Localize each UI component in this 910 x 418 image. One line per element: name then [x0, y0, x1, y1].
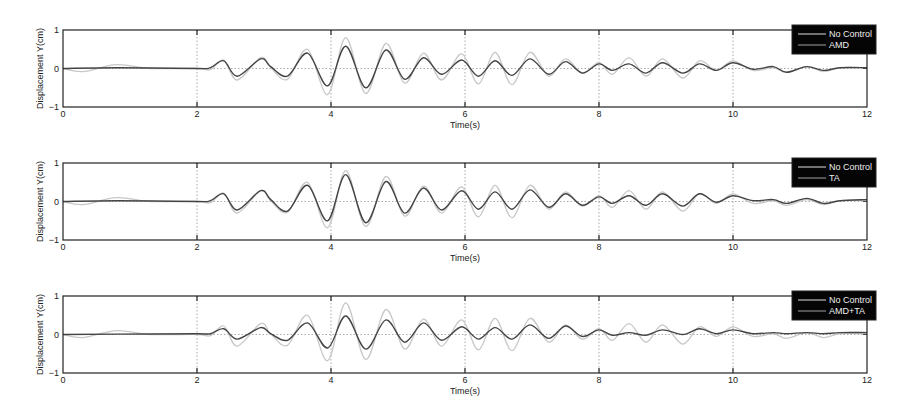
- x-tick-label: 8: [596, 375, 601, 385]
- x-tick-label: 0: [60, 242, 65, 252]
- x-tick-label: 2: [194, 375, 199, 385]
- x-axis-label: Time(s): [450, 253, 480, 263]
- y-tick-label: −1: [49, 102, 59, 112]
- legend-entry: AMD: [829, 40, 850, 50]
- y-tick-label: 1: [54, 291, 59, 301]
- y-axis-label: Displacement Y(cm): [35, 294, 45, 375]
- x-tick-label: 0: [60, 109, 65, 119]
- x-tick-label: 4: [328, 242, 333, 252]
- y-tick-label: 1: [54, 25, 59, 35]
- y-tick-label: −1: [49, 368, 59, 378]
- figure: 024681012−101Time(s)Displacement Y(cm)No…: [0, 0, 910, 418]
- legend-entry: No Control: [829, 162, 872, 172]
- x-tick-label: 12: [862, 242, 872, 252]
- y-axis-label: Displacement Y(cm): [35, 28, 45, 109]
- x-tick-label: 10: [728, 109, 738, 119]
- x-axis-label: Time(s): [450, 386, 480, 396]
- chart-panel-2: 024681012−101Time(s)Displacement Y(cm)No…: [35, 158, 876, 263]
- legend-entry: No Control: [829, 29, 872, 39]
- legend-entry: No Control: [829, 295, 872, 305]
- x-tick-label: 2: [194, 109, 199, 119]
- legend: No ControlAMD+TA: [792, 291, 876, 320]
- x-tick-label: 6: [462, 109, 467, 119]
- x-tick-label: 12: [862, 109, 872, 119]
- legend: No ControlAMD: [792, 25, 876, 54]
- chart-panel-1: 024681012−101Time(s)Displacement Y(cm)No…: [35, 25, 876, 130]
- legend: No ControlTA: [792, 158, 876, 187]
- y-tick-label: −1: [49, 235, 59, 245]
- y-axis-label: Displacement Y(cm): [35, 161, 45, 242]
- x-tick-label: 2: [194, 242, 199, 252]
- x-tick-label: 6: [462, 375, 467, 385]
- x-tick-label: 4: [328, 375, 333, 385]
- y-tick-label: 0: [54, 64, 59, 74]
- x-tick-label: 8: [596, 109, 601, 119]
- y-tick-label: 1: [54, 158, 59, 168]
- x-tick-label: 10: [728, 242, 738, 252]
- chart-panel-3: 024681012−101Time(s)Displacement Y(cm)No…: [35, 291, 876, 396]
- x-axis-label: Time(s): [450, 120, 480, 130]
- legend-entry: AMD+TA: [829, 306, 865, 316]
- y-tick-label: 0: [54, 330, 59, 340]
- legend-entry: TA: [829, 173, 840, 183]
- x-tick-label: 8: [596, 242, 601, 252]
- x-tick-label: 0: [60, 375, 65, 385]
- x-tick-label: 12: [862, 375, 872, 385]
- y-tick-label: 0: [54, 197, 59, 207]
- x-tick-label: 6: [462, 242, 467, 252]
- x-tick-label: 10: [728, 375, 738, 385]
- x-tick-label: 4: [328, 109, 333, 119]
